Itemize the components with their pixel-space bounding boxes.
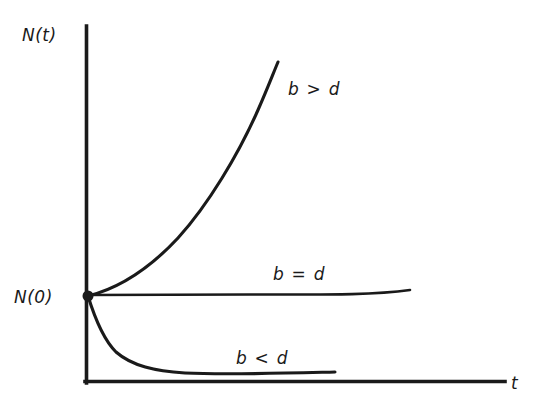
- curve-constant: [88, 290, 410, 295]
- population-growth-figure: N(t) N(0) t b > d b = d b < d: [0, 0, 535, 409]
- curve-label-growth: b > d: [288, 79, 341, 99]
- chart-canvas: N(t) N(0) t b > d b = d b < d: [0, 0, 535, 409]
- curve-label-decay: b < d: [236, 348, 289, 368]
- curve-label-constant: b = d: [273, 264, 326, 284]
- curve-decay: [88, 296, 335, 374]
- initial-value-dot: [83, 291, 94, 302]
- y-intercept-label: N(0): [14, 287, 53, 307]
- y-axis-label: N(t): [22, 25, 57, 45]
- curve-growth: [88, 62, 278, 296]
- x-axis-label: t: [511, 373, 519, 393]
